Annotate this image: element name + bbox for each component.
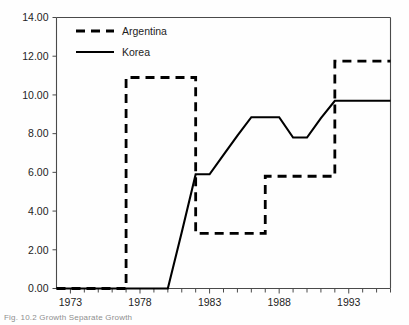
data-series-group bbox=[57, 61, 391, 288]
y-tick-label: 8.00 bbox=[28, 127, 49, 139]
y-tick-label: 14.00 bbox=[22, 11, 48, 23]
x-tick-label: 1978 bbox=[128, 296, 152, 308]
y-tick-label: 6.00 bbox=[28, 166, 49, 178]
legend-label-argentina: Argentina bbox=[122, 25, 167, 37]
legend-label-korea: Korea bbox=[122, 46, 150, 58]
x-tick-label: 1973 bbox=[59, 296, 83, 308]
y-tick-label: 4.00 bbox=[28, 205, 49, 217]
y-tick-label: 12.00 bbox=[22, 50, 48, 62]
x-tick-label: 1993 bbox=[337, 296, 361, 308]
y-tick-label: 2.00 bbox=[28, 244, 49, 256]
figure-caption: Fig. 10.2 Growth Separate Growth bbox=[4, 313, 404, 325]
y-tick-label: 0.00 bbox=[28, 282, 49, 294]
chart-legend: ArgentinaKorea bbox=[76, 25, 167, 58]
x-tick-label: 1988 bbox=[267, 296, 291, 308]
plot-frame bbox=[57, 18, 391, 289]
series-line-argentina bbox=[57, 61, 391, 288]
chart-figure: 0.002.004.006.008.0010.0012.0014.00 1973… bbox=[0, 0, 409, 325]
x-tick-label: 1983 bbox=[198, 296, 222, 308]
x-axis: 19731978198319881993 bbox=[59, 289, 391, 308]
y-axis: 0.002.004.006.008.0010.0012.0014.00 bbox=[22, 11, 56, 294]
series-line-korea bbox=[57, 101, 391, 289]
line-chart: 0.002.004.006.008.0010.0012.0014.00 1973… bbox=[0, 0, 409, 325]
y-tick-label: 10.00 bbox=[22, 89, 48, 101]
